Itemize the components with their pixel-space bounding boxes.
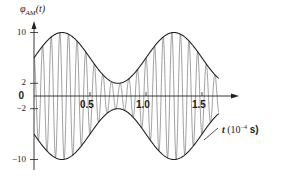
am-signal-chart bbox=[0, 0, 281, 177]
y-axis-arrow-icon bbox=[32, 21, 37, 29]
x-axis-label: t (10−4 s) bbox=[222, 124, 259, 135]
y-tick-label: −10 bbox=[6, 155, 26, 164]
y-tick-label: −2 bbox=[6, 104, 26, 113]
y-axis-label: φAM(t) bbox=[20, 4, 45, 17]
lower-envelope bbox=[34, 109, 219, 160]
y-tick-label: 2 bbox=[6, 78, 26, 87]
y-tick-label: 0 bbox=[4, 91, 24, 101]
x-tick-label: 1.0 bbox=[136, 100, 150, 110]
y-tick-label: 10 bbox=[6, 28, 26, 37]
x-tick-label: 0.5 bbox=[80, 100, 94, 110]
x-axis-arrow-icon bbox=[231, 94, 239, 99]
x-tick-label: 1.5 bbox=[192, 100, 206, 110]
x-label-pointer bbox=[204, 128, 218, 140]
